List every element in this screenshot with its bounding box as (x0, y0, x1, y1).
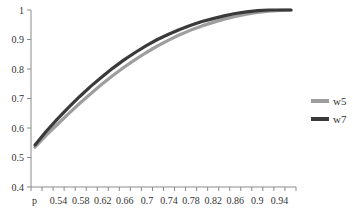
legend-label-w5: w5 (333, 95, 347, 107)
legend-label-w7: w7 (333, 113, 347, 125)
x-tick-label: 0.94 (271, 195, 289, 206)
y-axis: 0.40.50.60.70.80.91 (12, 5, 32, 193)
x-tick-label: 0.82 (204, 195, 222, 206)
x-tick-label: 0.9 (251, 195, 264, 206)
x-tick-label: 0.66 (116, 195, 134, 206)
line-chart: 0.40.50.60.70.80.91 p0.540.580.620.660.7… (0, 0, 353, 217)
y-tick-label: 1 (19, 5, 24, 16)
x-tick-label: 0.7 (141, 195, 154, 206)
y-tick-label: 0.9 (12, 34, 25, 45)
x-tick-label: 0.86 (227, 195, 245, 206)
y-tick-label: 0.8 (12, 64, 25, 75)
x-tick-label: 0.54 (50, 195, 68, 206)
y-tick-label: 0.5 (12, 152, 25, 163)
y-tick-label: 0.6 (12, 123, 25, 134)
plot-area (35, 10, 291, 147)
x-tick-label: 0.74 (160, 195, 178, 206)
x-tick-label: 0.58 (72, 195, 90, 206)
x-tick-label: 0.78 (182, 195, 200, 206)
series-line-w7 (35, 10, 291, 145)
y-tick-label: 0.4 (12, 182, 25, 193)
x-axis: p0.540.580.620.660.70.740.780.820.860.90… (31, 187, 296, 206)
x-tick-label: 0.62 (94, 195, 112, 206)
y-tick-label: 0.7 (12, 93, 25, 104)
series-line-w5 (35, 10, 291, 147)
x-tick-label: p (32, 195, 37, 206)
legend: w5w7 (311, 95, 347, 125)
